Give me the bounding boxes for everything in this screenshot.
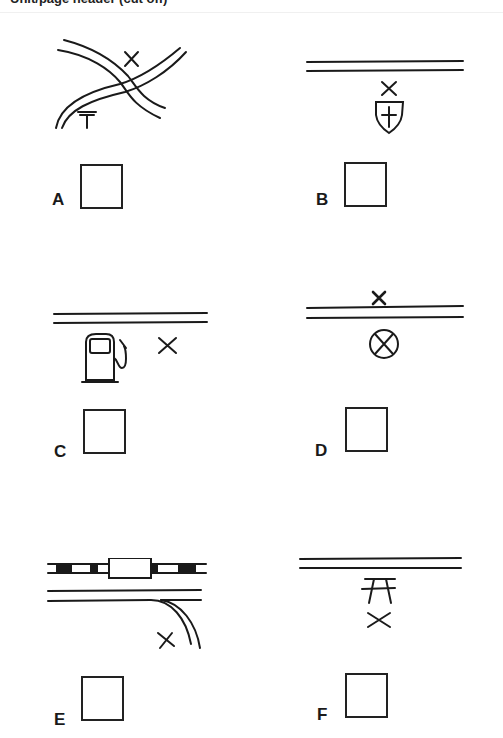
option-letter: F — [317, 706, 327, 723]
crossroads-telephone-icon — [50, 30, 210, 130]
option-letter: D — [315, 442, 327, 459]
header-left-text: Unit/page header (cut off) — [10, 0, 167, 6]
answer-checkbox-a[interactable] — [80, 164, 123, 209]
option-letter: B — [316, 191, 328, 208]
church-shield-icon — [305, 55, 470, 145]
option-letter: C — [54, 443, 66, 460]
page-header-cut: Unit/page header (cut off) — [0, 0, 503, 8]
answer-checkbox-b[interactable] — [344, 162, 387, 207]
option-letter: A — [52, 191, 64, 208]
picnic-site-icon — [298, 555, 468, 635]
answer-checkbox-c[interactable] — [83, 409, 126, 454]
petrol-station-icon — [52, 310, 212, 390]
circle-cross-icon — [305, 288, 470, 368]
header-divider — [0, 12, 503, 13]
answer-checkbox-e[interactable] — [81, 676, 124, 721]
level-crossing-station-icon — [46, 558, 211, 658]
answer-checkbox-f[interactable] — [345, 673, 388, 718]
answer-checkbox-d[interactable] — [345, 407, 388, 452]
option-letter: E — [54, 711, 65, 728]
